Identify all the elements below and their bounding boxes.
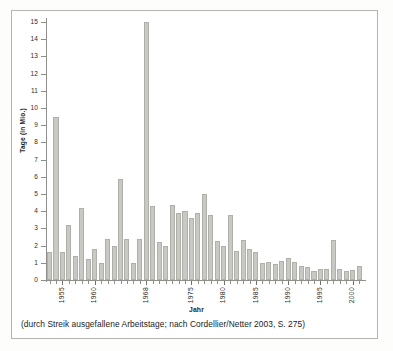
x-tick-1983 bbox=[243, 281, 244, 284]
bar-1955 bbox=[60, 252, 65, 280]
x-tick-1993 bbox=[308, 281, 309, 284]
bar-1953 bbox=[47, 252, 52, 280]
x-tick-1959 bbox=[88, 281, 89, 284]
figure-caption: (durch Streik ausgefallene Arbeitstage; … bbox=[21, 319, 305, 329]
x-tick-label-1980: 1980 bbox=[220, 287, 227, 303]
y-tick-0 bbox=[41, 280, 47, 281]
bar-1983 bbox=[241, 240, 246, 280]
bar-1999 bbox=[344, 271, 349, 280]
bar-1961 bbox=[99, 263, 104, 280]
bar-1992 bbox=[299, 266, 304, 280]
x-tick-label-1990: 1990 bbox=[285, 287, 292, 303]
bar-1965 bbox=[124, 239, 129, 280]
bar-1986 bbox=[260, 263, 265, 280]
bar-1997 bbox=[331, 240, 336, 280]
x-tick-1976 bbox=[198, 281, 199, 284]
bar-1980 bbox=[221, 246, 226, 280]
bar-1979 bbox=[215, 241, 220, 280]
bar-1984 bbox=[247, 249, 252, 280]
x-tick-1987 bbox=[269, 281, 270, 284]
y-tick-label-4: 4 bbox=[8, 207, 38, 214]
x-tick-1981 bbox=[230, 281, 231, 284]
x-tick-1955 bbox=[62, 281, 63, 285]
x-tick-1986 bbox=[262, 281, 263, 284]
x-tick-1978 bbox=[211, 281, 212, 284]
y-tick-label-3: 3 bbox=[8, 224, 38, 231]
bar-1958 bbox=[79, 208, 84, 280]
bar-1994 bbox=[311, 271, 316, 280]
bar-1954 bbox=[53, 117, 58, 280]
bar-1973 bbox=[176, 213, 181, 280]
bar-1990 bbox=[286, 258, 291, 280]
x-tick-1994 bbox=[314, 281, 315, 284]
x-tick-1972 bbox=[172, 281, 173, 284]
x-tick-1977 bbox=[204, 281, 205, 284]
bar-1962 bbox=[105, 239, 110, 280]
x-tick-1969 bbox=[153, 281, 154, 284]
bar-1974 bbox=[182, 211, 187, 280]
y-tick-label-1: 1 bbox=[8, 259, 38, 266]
y-tick-label-5: 5 bbox=[8, 190, 38, 197]
bar-1985 bbox=[253, 252, 258, 280]
x-tick-label-2000: 2000 bbox=[349, 287, 356, 303]
bar-1978 bbox=[208, 215, 213, 280]
bar-1969 bbox=[150, 206, 155, 280]
x-tick-1989 bbox=[282, 281, 283, 284]
bar-2001 bbox=[357, 266, 362, 280]
x-tick-label-1995: 1995 bbox=[317, 287, 324, 303]
x-tick-2001 bbox=[359, 281, 360, 284]
x-tick-1995 bbox=[320, 281, 321, 285]
x-tick-1975 bbox=[191, 281, 192, 285]
bar-2000 bbox=[350, 270, 355, 280]
bar-1995 bbox=[318, 269, 323, 280]
x-axis-title: Jahr bbox=[0, 306, 393, 313]
bar-1967 bbox=[137, 239, 142, 280]
x-tick-1990 bbox=[288, 281, 289, 285]
bar-1966 bbox=[131, 263, 136, 280]
bar-1991 bbox=[292, 262, 297, 280]
bar-1971 bbox=[163, 246, 168, 280]
bars-area bbox=[47, 22, 365, 280]
bar-1964 bbox=[118, 179, 123, 280]
bar-1998 bbox=[337, 269, 342, 280]
x-tick-1991 bbox=[295, 281, 296, 284]
x-tick-1960 bbox=[95, 281, 96, 285]
y-tick-label-13: 13 bbox=[8, 52, 38, 59]
x-tick-1971 bbox=[166, 281, 167, 284]
y-tick-label-6: 6 bbox=[8, 173, 38, 180]
y-tick-label-7: 7 bbox=[8, 156, 38, 163]
bar-1993 bbox=[305, 267, 310, 280]
x-tick-1979 bbox=[217, 281, 218, 284]
x-tick-2000 bbox=[353, 281, 354, 285]
x-tick-1961 bbox=[101, 281, 102, 284]
x-tick-1970 bbox=[159, 281, 160, 284]
bar-1959 bbox=[86, 259, 91, 281]
x-tick-1963 bbox=[114, 281, 115, 284]
y-tick-label-12: 12 bbox=[8, 70, 38, 77]
x-tick-1984 bbox=[250, 281, 251, 284]
x-tick-1997 bbox=[333, 281, 334, 284]
y-tick-label-15: 15 bbox=[8, 18, 38, 25]
x-tick-1980 bbox=[224, 281, 225, 285]
y-tick-label-2: 2 bbox=[8, 242, 38, 249]
x-tick-1965 bbox=[127, 281, 128, 284]
bar-1972 bbox=[170, 205, 175, 280]
bar-1968 bbox=[144, 22, 149, 280]
x-tick-label-1955: 1955 bbox=[59, 287, 66, 303]
bar-1996 bbox=[324, 269, 329, 280]
x-tick-1985 bbox=[256, 281, 257, 285]
y-tick-label-11: 11 bbox=[8, 87, 38, 94]
x-tick-1996 bbox=[327, 281, 328, 284]
bar-1957 bbox=[73, 256, 78, 280]
x-tick-1999 bbox=[346, 281, 347, 284]
y-tick-label-0: 0 bbox=[8, 276, 38, 283]
x-tick-1988 bbox=[275, 281, 276, 284]
y-tick-label-14: 14 bbox=[8, 35, 38, 42]
x-tick-1953 bbox=[50, 281, 51, 284]
x-tick-1966 bbox=[133, 281, 134, 284]
x-tick-1962 bbox=[108, 281, 109, 284]
bar-1987 bbox=[266, 262, 271, 280]
bar-1981 bbox=[228, 215, 233, 280]
bar-1960 bbox=[92, 249, 97, 280]
x-tick-1998 bbox=[340, 281, 341, 284]
